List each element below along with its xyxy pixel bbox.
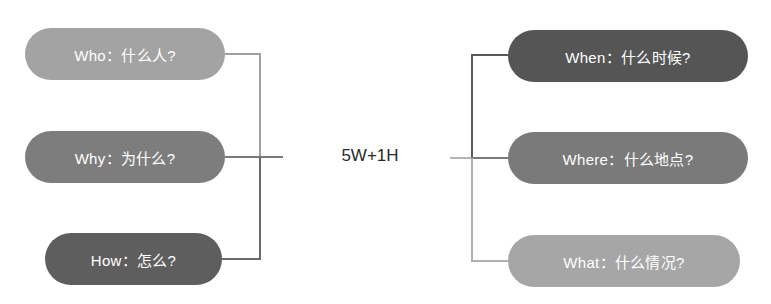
- connector-how: [222, 258, 261, 260]
- node-why-label: Why：为什么?: [75, 147, 176, 168]
- connector-when: [471, 54, 508, 56]
- connector-what: [471, 260, 508, 262]
- connector-right-vertical-upper: [471, 54, 473, 158]
- node-who: Who：什么人?: [25, 28, 225, 80]
- node-how: How：怎么?: [45, 233, 222, 285]
- node-when-label: When：什么时候?: [565, 46, 691, 67]
- node-who-label: Who：什么人?: [74, 44, 176, 65]
- node-when: When：什么时候?: [508, 30, 748, 82]
- node-where: Where：什么地点?: [508, 132, 748, 184]
- connector-why: [225, 156, 283, 158]
- connector-who: [225, 53, 261, 55]
- connector-left-vertical-upper: [259, 53, 261, 157]
- node-why: Why：为什么?: [25, 131, 225, 183]
- node-how-label: How：怎么?: [91, 249, 176, 270]
- connector-left-vertical-lower: [259, 157, 261, 260]
- connector-right-vertical-lower: [471, 158, 473, 261]
- center-topic: 5W+1H: [300, 146, 440, 166]
- node-where-label: Where：什么地点?: [563, 148, 694, 169]
- connector-where: [471, 157, 508, 159]
- node-what: What：什么情况?: [508, 235, 740, 287]
- node-what-label: What：什么情况?: [563, 251, 684, 272]
- connector-right-stub: [450, 157, 472, 159]
